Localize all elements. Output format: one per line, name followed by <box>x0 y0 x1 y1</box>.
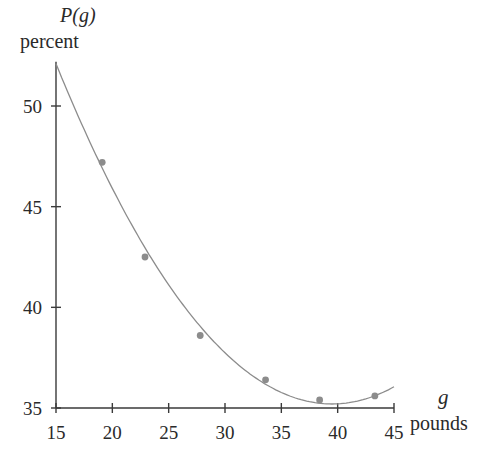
fit-curve <box>56 64 394 404</box>
x-tick-label: 40 <box>328 422 347 443</box>
tick-labels: 1520253035404535404550 <box>23 96 404 443</box>
axes <box>51 62 394 413</box>
x-axis-title: g <box>438 385 449 410</box>
y-tick-label: 45 <box>23 197 42 218</box>
x-tick-label: 15 <box>47 422 66 443</box>
data-point <box>197 332 204 339</box>
x-tick-label: 35 <box>272 422 291 443</box>
y-axis-unit: percent <box>20 30 79 53</box>
data-point <box>142 254 149 261</box>
y-axis-title: P(g) <box>60 4 96 27</box>
x-tick-label: 20 <box>103 422 122 443</box>
x-tick-label: 25 <box>159 422 178 443</box>
x-axis-unit: pounds <box>410 412 468 435</box>
data-points <box>99 159 378 403</box>
data-point <box>262 376 269 383</box>
fit-curve-path <box>56 64 394 404</box>
data-point <box>371 393 378 400</box>
y-tick-label: 35 <box>23 398 42 419</box>
y-axis-title-text: P(g) <box>60 4 96 26</box>
y-tick-label: 40 <box>23 297 42 318</box>
data-point <box>316 397 323 404</box>
y-tick-label: 50 <box>23 96 42 117</box>
data-point <box>99 159 106 166</box>
x-tick-label: 30 <box>216 422 235 443</box>
chart-canvas: 1520253035404535404550 <box>0 0 482 457</box>
x-tick-label: 45 <box>385 422 404 443</box>
